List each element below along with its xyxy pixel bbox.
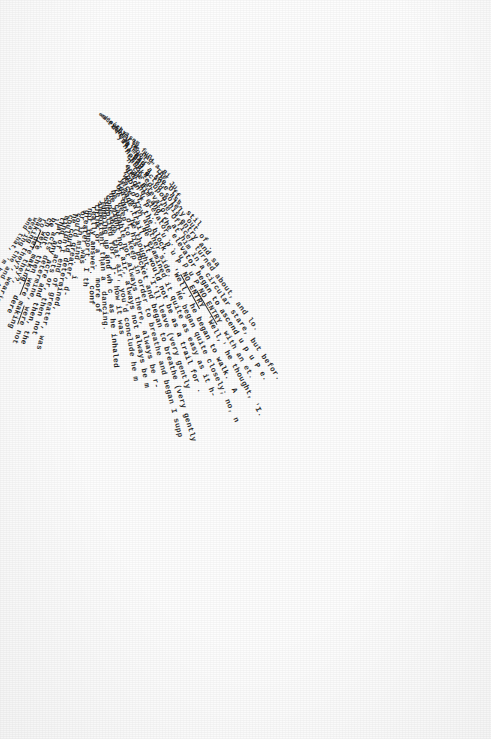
- fanned-text-wedge: ered) 'a such ato try somticularly fun.d…: [0, 0, 491, 739]
- manuscript-page: ered) 'a such ato try somticularly fun.d…: [0, 0, 491, 739]
